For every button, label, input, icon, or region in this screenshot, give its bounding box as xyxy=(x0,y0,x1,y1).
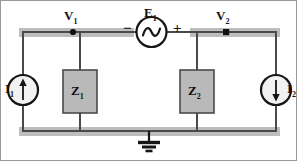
schematic-canvas xyxy=(1,1,297,161)
polarity-minus-label: − xyxy=(123,21,132,36)
circuit-diagram: V1 V2 E1 − + I1 I2 Z1 Z2 xyxy=(0,0,297,161)
node-label-v2: V2 xyxy=(216,9,229,26)
source-label-i2: I2 xyxy=(287,82,296,99)
impedance-label-z2: Z2 xyxy=(188,84,201,101)
polarity-plus-label: + xyxy=(173,21,182,36)
impedance-label-z1: Z1 xyxy=(71,84,84,101)
node-dot-v2 xyxy=(223,29,229,35)
source-label-i1: I1 xyxy=(5,82,14,99)
node-label-v1: V1 xyxy=(64,9,77,26)
node-dot-v1 xyxy=(70,29,76,35)
source-label-e1: E1 xyxy=(144,6,157,23)
